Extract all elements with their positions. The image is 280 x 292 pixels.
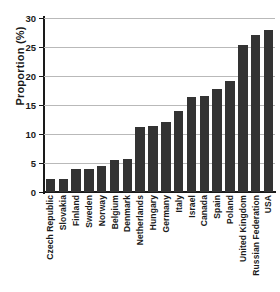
bar-slot bbox=[211, 18, 224, 192]
y-tick-label: 30 bbox=[25, 13, 36, 24]
y-tick-label: 5 bbox=[31, 158, 36, 169]
x-tick-label: Sweden bbox=[84, 195, 94, 228]
x-label-slot: Poland bbox=[224, 193, 237, 292]
bar-slot bbox=[147, 18, 160, 192]
x-label-slot: Sweden bbox=[82, 193, 95, 292]
x-label-slot: Netherlands bbox=[134, 193, 147, 292]
x-label-slot: Czech Republic bbox=[44, 193, 57, 292]
x-label-slot: Canada bbox=[198, 193, 211, 292]
bar bbox=[71, 169, 80, 192]
x-tick-label: United Kingdom bbox=[238, 195, 248, 262]
plot-area: 051015202530 bbox=[44, 18, 275, 192]
x-tick-label: Finland bbox=[71, 195, 81, 226]
bar bbox=[135, 127, 144, 192]
x-label-slot: Israel bbox=[185, 193, 198, 292]
x-tick-label: Israel bbox=[187, 195, 197, 218]
x-tick-label: Norway bbox=[97, 195, 107, 226]
bar bbox=[46, 179, 55, 192]
bar-slot bbox=[198, 18, 211, 192]
bar bbox=[251, 35, 260, 192]
bar bbox=[187, 97, 196, 192]
bar bbox=[123, 159, 132, 192]
x-label-slot: Norway bbox=[95, 193, 108, 292]
bar-series bbox=[44, 18, 275, 192]
bar bbox=[264, 30, 273, 192]
bar-slot bbox=[262, 18, 275, 192]
x-tick-label: Germany bbox=[161, 195, 171, 233]
y-axis-title: Proportion (%) bbox=[14, 6, 26, 126]
x-label-slot: Russian Federation bbox=[249, 193, 262, 292]
bar bbox=[200, 96, 209, 192]
x-axis-labels: Czech RepublicSlovakiaFinlandSwedenNorwa… bbox=[44, 193, 275, 292]
x-tick-label: Hungary bbox=[148, 195, 158, 230]
x-tick-label: Denmark bbox=[122, 195, 132, 232]
bar-slot bbox=[121, 18, 134, 192]
bar bbox=[212, 89, 221, 192]
x-label-slot: USA bbox=[262, 193, 275, 292]
x-label-slot: United Kingdom bbox=[236, 193, 249, 292]
bar-slot bbox=[249, 18, 262, 192]
x-tick-label: Poland bbox=[225, 195, 235, 224]
bar-slot bbox=[236, 18, 249, 192]
bar bbox=[110, 160, 119, 192]
bar-slot bbox=[185, 18, 198, 192]
x-tick-label: Netherlands bbox=[135, 195, 145, 245]
bar-slot bbox=[224, 18, 237, 192]
x-label-slot: Finland bbox=[70, 193, 83, 292]
x-tick-label: Czech Republic bbox=[45, 195, 55, 260]
bar-slot bbox=[159, 18, 172, 192]
x-label-slot: Denmark bbox=[121, 193, 134, 292]
bar bbox=[238, 45, 247, 192]
x-label-slot: Slovakia bbox=[57, 193, 70, 292]
bar-slot bbox=[70, 18, 83, 192]
bar-slot bbox=[82, 18, 95, 192]
x-tick-label: Italy bbox=[174, 195, 184, 213]
bar-slot bbox=[95, 18, 108, 192]
bar bbox=[225, 81, 234, 192]
bar bbox=[84, 169, 93, 192]
x-label-slot: Italy bbox=[172, 193, 185, 292]
bar-slot bbox=[172, 18, 185, 192]
y-tick-label: 25 bbox=[25, 42, 36, 53]
x-tick-label: USA bbox=[263, 195, 273, 213]
x-label-slot: Hungary bbox=[147, 193, 160, 292]
x-tick-label: Belgium bbox=[110, 195, 120, 229]
bar bbox=[161, 122, 170, 192]
x-tick-label: Spain bbox=[212, 195, 222, 219]
bar-slot bbox=[57, 18, 70, 192]
bar-slot bbox=[134, 18, 147, 192]
bar bbox=[59, 179, 68, 192]
x-label-slot: Belgium bbox=[108, 193, 121, 292]
bar bbox=[174, 111, 183, 192]
bar-chart: Proportion (%) 051015202530 Czech Republ… bbox=[0, 0, 280, 292]
y-tick-label: 0 bbox=[31, 187, 36, 198]
x-label-slot: Germany bbox=[159, 193, 172, 292]
bar-slot bbox=[44, 18, 57, 192]
x-tick-label: Canada bbox=[199, 195, 209, 226]
x-label-slot: Spain bbox=[211, 193, 224, 292]
x-tick-label: Russian Federation bbox=[251, 195, 261, 276]
x-tick-label: Slovakia bbox=[58, 195, 68, 230]
y-tick-label: 15 bbox=[25, 100, 36, 111]
bar bbox=[97, 166, 106, 192]
y-tick-label: 20 bbox=[25, 71, 36, 82]
y-tick-label: 10 bbox=[25, 129, 36, 140]
bar-slot bbox=[108, 18, 121, 192]
bar bbox=[148, 126, 157, 192]
